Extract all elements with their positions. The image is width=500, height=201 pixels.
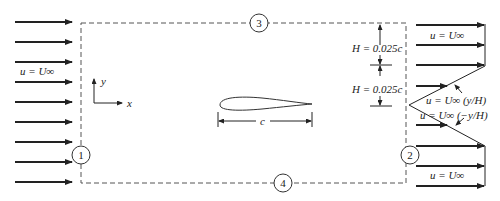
chord-label: c — [260, 115, 265, 127]
inlet-velocity-arrows — [15, 22, 72, 182]
boundary-marker-1: 1 — [72, 146, 90, 164]
chord-dimension — [218, 112, 312, 127]
flow-diagram: u = U∞ y x c 1 2 3 4 H = — [0, 0, 500, 201]
airfoil-shape — [220, 97, 312, 110]
svg-text:4: 4 — [280, 177, 286, 189]
coordinate-axes — [94, 79, 122, 103]
x-axis-label: x — [126, 97, 132, 109]
boundary-marker-4: 4 — [274, 174, 292, 192]
lower-h-dimension-label: H = 0.025c — [351, 83, 403, 95]
upper-shear-label: u = U∞ (y/H) — [426, 94, 487, 107]
lower-shear-label: u = U∞ (−y/H) — [420, 109, 488, 122]
boundary-marker-3: 3 — [250, 14, 268, 32]
boundary-marker-2: 2 — [401, 146, 419, 164]
svg-text:1: 1 — [78, 149, 84, 161]
y-axis-label: y — [100, 75, 106, 87]
outlet-top-label: u = U∞ — [430, 29, 464, 41]
outlet-bottom-label: u = U∞ — [430, 169, 464, 181]
diagram-canvas: u = U∞ y x c 1 2 3 4 H = — [0, 0, 500, 201]
inlet-velocity-label: u = U∞ — [20, 65, 54, 77]
svg-text:2: 2 — [407, 149, 413, 161]
svg-text:3: 3 — [256, 17, 262, 29]
upper-h-dimension-label: H = 0.025c — [351, 42, 403, 54]
